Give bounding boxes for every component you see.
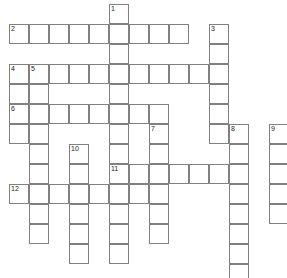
crossword-cell[interactable] [269, 204, 287, 224]
crossword-cell[interactable] [189, 164, 209, 184]
clue-number-9: 9 [271, 125, 275, 133]
crossword-cell[interactable] [209, 124, 229, 144]
crossword-cell[interactable] [129, 64, 149, 84]
crossword-cell[interactable] [169, 164, 189, 184]
crossword-cell[interactable] [69, 104, 89, 124]
clue-number-1: 1 [111, 5, 115, 13]
crossword-cell[interactable] [69, 164, 89, 184]
crossword-cell[interactable] [169, 64, 189, 84]
crossword-cell[interactable] [9, 84, 29, 104]
crossword-cell[interactable] [109, 204, 129, 224]
crossword-cell[interactable]: 8 [229, 124, 249, 144]
crossword-cell[interactable] [69, 24, 89, 44]
crossword-cell[interactable] [269, 184, 287, 204]
crossword-cell[interactable] [69, 204, 89, 224]
crossword-cell[interactable] [229, 184, 249, 204]
crossword-cell[interactable] [89, 24, 109, 44]
crossword-cell[interactable] [229, 164, 249, 184]
crossword-cell[interactable] [49, 24, 69, 44]
crossword-cell[interactable] [109, 184, 129, 204]
crossword-cell[interactable] [149, 184, 169, 204]
crossword-cell[interactable] [149, 144, 169, 164]
crossword-cell[interactable] [149, 224, 169, 244]
crossword-cell[interactable]: 10 [69, 144, 89, 164]
crossword-cell[interactable] [229, 244, 249, 264]
crossword-cell[interactable]: 12 [9, 184, 29, 204]
crossword-cell[interactable] [149, 104, 169, 124]
crossword-cell[interactable] [89, 104, 109, 124]
crossword-cell[interactable] [229, 264, 249, 278]
crossword-cell[interactable]: 11 [109, 164, 129, 184]
crossword-cell[interactable] [29, 144, 49, 164]
crossword-cell[interactable]: 1 [109, 4, 129, 24]
crossword-grid: 123456789101112 [0, 0, 287, 278]
crossword-cell[interactable]: 2 [9, 24, 29, 44]
crossword-cell[interactable] [29, 104, 49, 124]
crossword-cell[interactable] [69, 244, 89, 264]
clue-number-5: 5 [31, 65, 35, 73]
crossword-cell[interactable]: 7 [149, 124, 169, 144]
crossword-cell[interactable] [49, 184, 69, 204]
clue-number-12: 12 [11, 185, 19, 193]
crossword-cell[interactable] [209, 164, 229, 184]
crossword-cell[interactable] [209, 64, 229, 84]
crossword-cell[interactable]: 6 [9, 104, 29, 124]
crossword-cell[interactable] [269, 144, 287, 164]
crossword-cell[interactable] [109, 84, 129, 104]
clue-number-3: 3 [211, 25, 215, 33]
crossword-cell[interactable] [229, 224, 249, 244]
crossword-cell[interactable] [109, 244, 129, 264]
crossword-cell[interactable] [29, 224, 49, 244]
crossword-cell[interactable] [49, 104, 69, 124]
clue-number-2: 2 [11, 25, 15, 33]
crossword-cell[interactable] [29, 124, 49, 144]
crossword-cell[interactable] [9, 124, 29, 144]
crossword-cell[interactable] [149, 204, 169, 224]
crossword-cell[interactable] [29, 84, 49, 104]
crossword-cell[interactable] [269, 164, 287, 184]
crossword-cell[interactable] [169, 24, 189, 44]
clue-number-6: 6 [11, 105, 15, 113]
crossword-cell[interactable] [49, 64, 69, 84]
crossword-cell[interactable] [69, 224, 89, 244]
crossword-cell[interactable] [129, 164, 149, 184]
crossword-cell[interactable] [29, 204, 49, 224]
crossword-cell[interactable] [29, 184, 49, 204]
crossword-cell[interactable] [149, 164, 169, 184]
crossword-cell[interactable] [109, 44, 129, 64]
crossword-cell[interactable] [89, 184, 109, 204]
clue-number-11: 11 [111, 165, 118, 173]
crossword-cell[interactable] [69, 64, 89, 84]
crossword-cell[interactable] [189, 64, 209, 84]
crossword-cell[interactable] [109, 224, 129, 244]
crossword-cell[interactable] [129, 104, 149, 124]
crossword-cell[interactable] [29, 24, 49, 44]
crossword-cell[interactable] [109, 104, 129, 124]
crossword-cell[interactable] [149, 24, 169, 44]
crossword-cell[interactable] [129, 24, 149, 44]
crossword-cell[interactable] [29, 164, 49, 184]
crossword-cell[interactable] [209, 104, 229, 124]
clue-number-7: 7 [151, 125, 155, 133]
crossword-cell[interactable] [149, 64, 169, 84]
crossword-cell[interactable]: 3 [209, 24, 229, 44]
clue-number-4: 4 [11, 65, 15, 73]
crossword-cell[interactable] [209, 84, 229, 104]
crossword-cell[interactable]: 5 [29, 64, 49, 84]
crossword-cell[interactable] [109, 64, 129, 84]
crossword-cell[interactable]: 9 [269, 124, 287, 144]
clue-number-8: 8 [231, 125, 235, 133]
crossword-cell[interactable] [109, 24, 129, 44]
crossword-cell[interactable] [209, 44, 229, 64]
crossword-cell[interactable] [229, 204, 249, 224]
clue-number-10: 10 [71, 145, 79, 153]
crossword-cell[interactable]: 4 [9, 64, 29, 84]
crossword-cell[interactable] [229, 144, 249, 164]
crossword-cell[interactable] [89, 64, 109, 84]
crossword-cell[interactable] [69, 184, 89, 204]
crossword-cell[interactable] [109, 124, 129, 144]
crossword-cell[interactable] [109, 144, 129, 164]
crossword-cell[interactable] [129, 184, 149, 204]
